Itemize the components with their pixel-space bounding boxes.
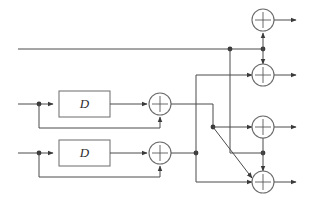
delay-block-2-label: D (79, 145, 90, 160)
output-adders-group (252, 9, 296, 193)
block-diagram-canvas: D D (0, 0, 314, 204)
bypass-wire-group (18, 33, 265, 171)
row1-group: D (18, 91, 252, 178)
delay-block-1-label: D (79, 96, 90, 111)
diagram-svg: D D (0, 0, 314, 204)
